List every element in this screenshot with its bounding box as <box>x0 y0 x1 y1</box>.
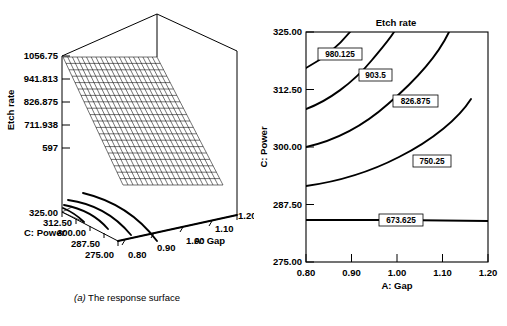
surface-ytick-4: 275.00 <box>85 249 114 260</box>
surface-floor-contours <box>63 193 237 241</box>
surface-ztick-2: 826.875 <box>24 96 59 107</box>
contour-plot-panel: Etch rate 325.00 312.50 3 <box>253 0 507 326</box>
contour-xtick-4: 1.20 <box>479 267 498 278</box>
surface-xaxis-title: A: Gap <box>194 235 225 246</box>
surface-xtick-4: 1.20 <box>238 210 254 221</box>
caption-a-text: The response surface <box>88 292 180 303</box>
contour-xaxis-title: A: Gap <box>381 280 412 291</box>
surface-ytick-3: 287.50 <box>71 238 100 249</box>
surface-xtick-1: 0.90 <box>157 242 176 253</box>
surface-ztick-1: 941.813 <box>24 73 58 84</box>
contour-plot-svg: Etch rate 325.00 312.50 3 <box>253 0 507 292</box>
contour-xaxis-ticks <box>306 254 488 262</box>
contour-label-750-text: 750.25 <box>419 157 444 166</box>
contour-xtick-1: 0.90 <box>342 267 361 278</box>
response-surface-panel: 1056.75 941.813 826.875 711.938 597 Etch… <box>0 0 254 326</box>
contour-yaxis-title: C: Power <box>258 126 269 167</box>
contour-label-980: 980.125 <box>318 48 362 60</box>
contour-xtick-3: 1.10 <box>433 267 452 278</box>
surface-zaxis-title: Etch rate <box>5 90 16 131</box>
contour-label-826: 826.875 <box>393 95 438 107</box>
surface-ztick-4: 597 <box>42 142 58 153</box>
contour-ytick-4: 275.00 <box>273 256 302 267</box>
caption-a-marker: (a) <box>74 292 86 303</box>
contour-ytick-1: 312.50 <box>273 84 302 95</box>
figure-root: 1056.75 941.813 826.875 711.938 597 Etch… <box>0 0 507 326</box>
contour-xtick-2: 1.00 <box>388 267 407 278</box>
contour-label-980-text: 980.125 <box>325 50 355 59</box>
surface-xtick-0: 0.80 <box>128 249 147 260</box>
contour-label-673: 673.625 <box>379 214 423 226</box>
response-surface-svg: 1056.75 941.813 826.875 711.938 597 Etch… <box>0 0 254 292</box>
contour-label-903: 903.5 <box>359 69 392 81</box>
surface-xtick-3: 1.10 <box>215 223 234 234</box>
contour-plot-title: Etch rate <box>376 17 417 28</box>
contour-ytick-2: 300.00 <box>273 141 302 152</box>
contour-label-826-text: 826.875 <box>401 97 431 106</box>
caption-a: (a) The response surface <box>0 292 254 303</box>
contour-plot-frame <box>306 32 488 262</box>
surface-ztick-3: 711.938 <box>24 119 58 130</box>
contour-label-903-text: 903.5 <box>365 71 386 80</box>
contour-curve-750 <box>306 99 471 186</box>
surface-mesh <box>63 57 223 185</box>
contour-label-673-text: 673.625 <box>386 216 416 225</box>
contour-label-750: 750.25 <box>413 155 451 167</box>
contour-ytick-0: 325.00 <box>273 26 302 37</box>
contour-xtick-0: 0.80 <box>297 267 316 278</box>
contour-ytick-3: 287.50 <box>273 199 302 210</box>
surface-yaxis-title: C: Power <box>24 227 65 238</box>
surface-ztick-0: 1056.75 <box>24 50 59 61</box>
